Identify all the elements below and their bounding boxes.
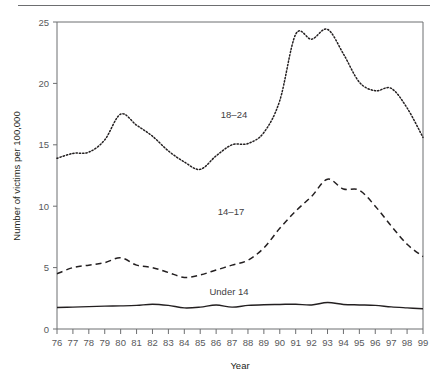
x-tick-label: 86 <box>211 337 222 348</box>
data-series-group <box>57 29 423 309</box>
x-tick-label: 78 <box>84 337 95 348</box>
x-tick-label: 99 <box>418 337 429 348</box>
x-tick-label: 92 <box>306 337 317 348</box>
x-tick-label: 76 <box>52 337 63 348</box>
line-chart-plot: 0510152025 76777879808182838485868788899… <box>0 0 448 384</box>
x-tick-label: 77 <box>68 337 79 348</box>
y-tick-label: 0 <box>44 324 49 335</box>
y-tick-label: 10 <box>38 201 49 212</box>
series-label-under-14: Under 14 <box>209 286 248 297</box>
x-tick-label: 96 <box>370 337 381 348</box>
series-inline-labels: 18–2414–17Under 14 <box>209 109 248 297</box>
y-axis-title: Number of victims per 100,000 <box>11 111 22 240</box>
y-tick-label: 20 <box>38 78 49 89</box>
x-tick-label: 98 <box>402 337 413 348</box>
x-tick-label: 97 <box>386 337 397 348</box>
x-tick-label: 87 <box>227 337 238 348</box>
x-tick-label: 94 <box>338 337 349 348</box>
x-tick-label: 91 <box>290 337 301 348</box>
x-tick-label: 88 <box>243 337 254 348</box>
x-tick-label: 83 <box>163 337 174 348</box>
x-tick-label: 84 <box>179 337 190 348</box>
x-tick-label: 80 <box>115 337 126 348</box>
chart-figure: 0510152025 76777879808182838485868788899… <box>0 0 448 384</box>
series-line-under-14 <box>57 302 423 308</box>
x-tick-label: 85 <box>195 337 206 348</box>
y-tick-label: 25 <box>38 17 49 28</box>
x-tick-label: 95 <box>354 337 365 348</box>
series-line-14-17 <box>57 179 423 277</box>
y-tick-label: 15 <box>38 139 49 150</box>
y-axis-tick-labels: 0510152025 <box>38 17 49 335</box>
x-tick-label: 81 <box>131 337 142 348</box>
x-axis-title: Year <box>230 360 249 371</box>
x-tick-label: 93 <box>322 337 333 348</box>
y-axis-ticks <box>53 22 57 329</box>
x-tick-label: 90 <box>274 337 285 348</box>
x-axis-ticks <box>57 329 423 334</box>
series-label-14-17: 14–17 <box>218 206 244 217</box>
plot-frame <box>57 22 423 329</box>
series-line-18-24 <box>57 29 423 169</box>
x-tick-label: 82 <box>147 337 158 348</box>
x-tick-label: 89 <box>259 337 270 348</box>
x-axis-tick-labels: 7677787980818283848586878889909192939495… <box>52 337 429 348</box>
y-tick-label: 5 <box>44 262 49 273</box>
series-label-18-24: 18–24 <box>221 109 247 120</box>
x-tick-label: 79 <box>99 337 110 348</box>
